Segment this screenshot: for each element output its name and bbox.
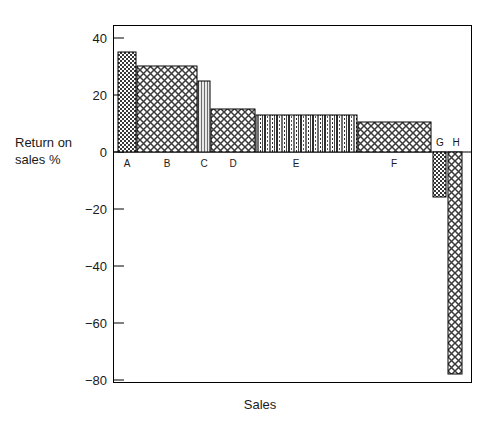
bar-B[interactable] bbox=[137, 66, 197, 152]
cat-label-E: E bbox=[293, 158, 300, 169]
y-tick-label: 0 bbox=[100, 145, 107, 160]
bar-D[interactable] bbox=[211, 109, 255, 152]
chart-container: 40 20 0 −20 −40 −60 bbox=[0, 0, 496, 425]
y-axis-title-line1: Return on bbox=[15, 135, 72, 150]
bar-series bbox=[118, 52, 462, 374]
bar-G[interactable] bbox=[433, 152, 446, 197]
cat-label-H: H bbox=[452, 137, 459, 148]
cat-label-G: G bbox=[436, 137, 444, 148]
cat-label-D: D bbox=[229, 158, 236, 169]
bar-chart-svg: 40 20 0 −20 −40 −60 bbox=[0, 0, 496, 425]
bar-A[interactable] bbox=[118, 52, 136, 152]
y-tick-minus60: −60 bbox=[85, 316, 124, 331]
cat-label-B: B bbox=[164, 158, 171, 169]
y-tick-minus40: −40 bbox=[85, 259, 124, 274]
y-tick-label: 20 bbox=[93, 88, 107, 103]
cat-label-F: F bbox=[391, 158, 397, 169]
y-tick-40: 40 bbox=[93, 31, 124, 46]
cat-label-C: C bbox=[200, 158, 207, 169]
bar-H[interactable] bbox=[448, 152, 462, 374]
bar-C[interactable] bbox=[198, 81, 210, 152]
x-axis-title: Sales bbox=[244, 397, 277, 412]
y-tick-minus20: −20 bbox=[85, 202, 124, 217]
y-tick-label: −20 bbox=[85, 202, 107, 217]
cat-label-A: A bbox=[124, 158, 131, 169]
bar-E[interactable] bbox=[256, 115, 357, 152]
bar-F[interactable] bbox=[358, 122, 431, 152]
axis-titles: Return on sales % Sales bbox=[15, 135, 277, 412]
y-tick-label: −40 bbox=[85, 259, 107, 274]
y-tick-minus80: −80 bbox=[85, 373, 124, 388]
y-tick-label: 40 bbox=[93, 31, 107, 46]
y-axis-title-line2: sales % bbox=[15, 152, 61, 167]
y-tick-label: −60 bbox=[85, 316, 107, 331]
y-tick-label: −80 bbox=[85, 373, 107, 388]
